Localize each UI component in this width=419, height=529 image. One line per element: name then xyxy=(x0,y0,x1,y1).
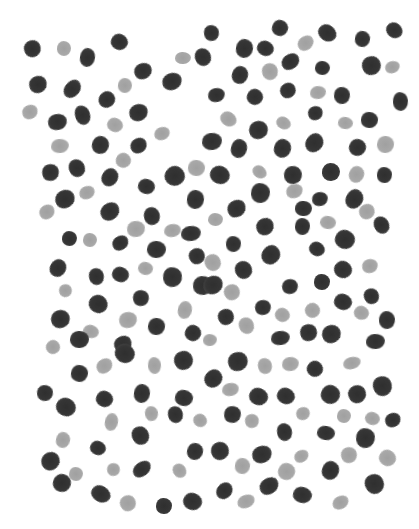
light-dot xyxy=(187,160,205,177)
dark-dot xyxy=(186,442,205,462)
light-dot xyxy=(190,411,209,430)
light-dot xyxy=(148,356,163,374)
light-dot xyxy=(54,431,71,450)
dark-dot xyxy=(331,258,355,282)
dark-dot xyxy=(130,457,154,480)
dark-dot xyxy=(283,165,303,185)
dark-dot xyxy=(298,321,320,343)
light-dot xyxy=(163,223,182,239)
dark-dot xyxy=(280,277,299,295)
dark-dot xyxy=(69,331,88,349)
light-dot xyxy=(57,41,71,56)
dark-dot xyxy=(270,330,291,347)
dark-dot xyxy=(65,156,88,180)
light-dot xyxy=(105,115,125,134)
dark-dot xyxy=(304,358,326,380)
dark-dot xyxy=(147,318,165,337)
dark-dot xyxy=(275,422,294,443)
light-dot xyxy=(275,461,296,483)
dark-dot xyxy=(355,30,372,48)
dark-dot xyxy=(246,119,269,142)
light-dot xyxy=(83,233,97,248)
dark-dot xyxy=(246,385,270,409)
dark-dot xyxy=(38,448,64,474)
dark-dot xyxy=(229,138,249,160)
light-dot xyxy=(294,404,313,422)
light-dot xyxy=(170,460,190,480)
dark-dot xyxy=(225,349,251,374)
dark-dot xyxy=(311,190,330,207)
dark-dot xyxy=(162,266,184,288)
dark-dot xyxy=(314,274,329,290)
dark-dot xyxy=(131,60,154,82)
dark-dot xyxy=(156,498,172,514)
dark-dot xyxy=(88,439,108,458)
dark-dot xyxy=(318,383,342,407)
dark-dot xyxy=(21,37,45,61)
dark-dot xyxy=(85,291,110,316)
dark-dot xyxy=(316,425,335,442)
dark-dot xyxy=(231,258,255,282)
dark-dot xyxy=(315,21,339,45)
light-dot xyxy=(69,467,83,481)
dark-dot xyxy=(332,291,355,312)
light-dot xyxy=(319,215,336,230)
dark-dot xyxy=(128,423,152,448)
light-dot xyxy=(20,102,40,122)
light-dot xyxy=(338,444,359,465)
light-dot xyxy=(273,114,292,132)
dark-dot xyxy=(255,38,277,58)
dark-dot xyxy=(72,103,93,127)
light-dot xyxy=(337,116,353,130)
dark-dot xyxy=(377,167,393,184)
dark-dot xyxy=(40,161,62,182)
dark-dot xyxy=(94,388,116,410)
light-dot xyxy=(376,136,394,155)
dark-dot xyxy=(162,163,189,190)
dark-dot xyxy=(383,410,404,430)
light-dot xyxy=(152,124,172,142)
dark-dot xyxy=(88,482,113,506)
light-dot xyxy=(126,220,146,238)
light-dot xyxy=(384,59,403,75)
dark-dot xyxy=(109,31,131,52)
dark-dot xyxy=(170,347,196,373)
dark-dot xyxy=(226,235,243,252)
dark-dot xyxy=(347,136,368,157)
dark-dot xyxy=(223,404,243,423)
dark-dot xyxy=(71,364,90,382)
light-dot xyxy=(284,181,305,200)
dark-dot xyxy=(315,61,331,76)
light-dot xyxy=(118,77,133,92)
light-dot xyxy=(104,412,120,432)
dark-dot xyxy=(361,111,379,128)
dark-dot xyxy=(53,394,79,419)
light-dot xyxy=(177,300,194,320)
light-dot xyxy=(250,162,270,181)
light-dot xyxy=(175,52,191,64)
light-dot xyxy=(352,304,371,322)
dark-dot xyxy=(306,103,326,123)
dark-dot xyxy=(254,298,273,316)
light-dot xyxy=(347,164,367,185)
dark-dot xyxy=(294,201,311,217)
dark-dot xyxy=(127,101,151,124)
light-dot xyxy=(236,315,258,338)
dark-dot xyxy=(359,53,385,79)
dark-dot xyxy=(201,132,222,151)
light-dot xyxy=(337,409,351,423)
dark-dot xyxy=(250,444,274,467)
dark-dot xyxy=(253,214,278,238)
light-dot xyxy=(360,257,379,275)
dark-dot xyxy=(319,322,344,346)
light-dot xyxy=(117,492,140,515)
dark-dot xyxy=(192,45,215,68)
dark-dot xyxy=(235,38,254,59)
dark-dot xyxy=(91,134,111,155)
dark-dot xyxy=(291,485,313,505)
light-dot xyxy=(217,109,239,130)
light-dot xyxy=(57,282,75,300)
light-dot xyxy=(309,85,327,100)
light-dot xyxy=(77,184,97,203)
dark-dot xyxy=(36,384,54,402)
